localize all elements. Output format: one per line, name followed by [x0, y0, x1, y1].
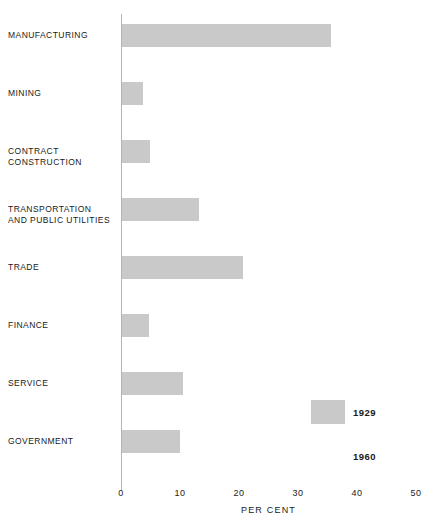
legend-swatch — [311, 400, 345, 424]
category-label: TRADE — [8, 262, 116, 273]
bar-row: MINING — [0, 58, 437, 116]
bar-mining — [122, 82, 143, 105]
x-tick-label: 30 — [293, 488, 304, 498]
bar-row: FINANCE — [0, 290, 437, 348]
bar-manufacturing — [122, 24, 331, 47]
bar-finance — [122, 314, 149, 337]
category-label: CONTRACT CONSTRUCTION — [8, 146, 116, 168]
x-tick-label: 10 — [175, 488, 186, 498]
category-label: SERVICE — [8, 378, 116, 389]
legend-label: 1960 — [353, 451, 376, 462]
category-label: GOVERNMENT — [8, 436, 116, 447]
x-tick-label: 50 — [411, 488, 422, 498]
legend-swatch — [311, 444, 345, 468]
bar-service — [122, 372, 183, 395]
bar-row: TRANSPORTATION AND PUBLIC UTILITIES — [0, 174, 437, 232]
bar-contract-construction — [122, 140, 150, 163]
x-axis-ticks: 01020304050 — [0, 488, 437, 504]
x-axis-label: PER CENT — [121, 505, 416, 515]
legend-item: 1929 — [311, 400, 431, 426]
category-label: MINING — [8, 88, 116, 99]
bar-row: CONTRACT CONSTRUCTION — [0, 116, 437, 174]
legend-label: 1929 — [353, 407, 376, 418]
bar-row: TRADE — [0, 232, 437, 290]
bar-trade — [122, 256, 243, 279]
x-tick-label: 0 — [118, 488, 123, 498]
bar-transportation-and-public-utilities — [122, 198, 199, 221]
category-label: TRANSPORTATION AND PUBLIC UTILITIES — [8, 204, 116, 226]
bar-row: MANUFACTURING — [0, 0, 437, 58]
x-tick-label: 40 — [352, 488, 363, 498]
legend-item: 1960 — [311, 444, 431, 470]
x-tick-label: 20 — [234, 488, 245, 498]
bar-chart: MANUFACTURINGMININGCONTRACT CONSTRUCTION… — [0, 0, 437, 530]
bar-government — [122, 430, 180, 453]
category-label: MANUFACTURING — [8, 30, 116, 41]
bar-row: SERVICE — [0, 348, 437, 406]
category-label: FINANCE — [8, 320, 116, 331]
